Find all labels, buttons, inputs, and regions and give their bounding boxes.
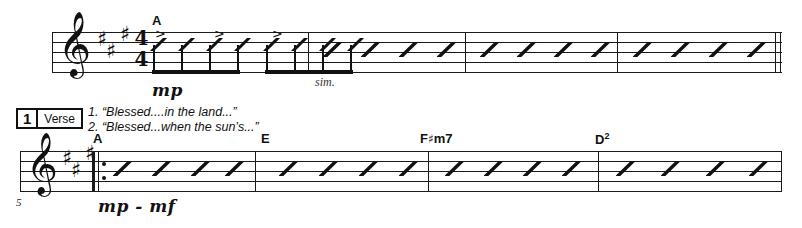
- verse-label: Verse: [38, 110, 81, 127]
- chord-root: D: [595, 132, 604, 147]
- barline: [598, 151, 599, 192]
- key-sharp-icon: ♯: [120, 24, 130, 45]
- staff-line: [20, 191, 782, 192]
- dynamic-mp-mf: mp - mf: [98, 196, 176, 216]
- verse-marker-box[interactable]: 1 Verse: [16, 108, 83, 129]
- staff-line: [20, 181, 782, 182]
- barline: [428, 151, 429, 192]
- lyric-line-1: 1. “Blessed....in the land...”: [88, 105, 237, 119]
- key-sharp-icon: ♯: [106, 41, 116, 62]
- lyric-line-2: 2. “Blessed...when the sun’s...”: [88, 120, 259, 134]
- note-stem: [322, 45, 324, 72]
- treble-clef-icon: 𝄞: [58, 16, 91, 72]
- chord-extension: 2: [604, 131, 609, 141]
- note-stem: [350, 45, 352, 72]
- chord-symbol-Fsharp-m7: F♯m7: [420, 131, 453, 146]
- chord-symbol-D2: D2: [595, 131, 609, 147]
- eighth-beam: [152, 70, 240, 74]
- note-stem: [153, 45, 155, 72]
- lyric-number-1: 1.: [88, 105, 98, 119]
- barline: [52, 32, 53, 73]
- sheet-music-page: 𝄞 ♯ ♯ ♯ 4 4 A > > > mp sim. 1: [0, 0, 802, 228]
- measure-number: 5: [16, 196, 22, 208]
- staff-line: [20, 161, 782, 162]
- chord-quality: m7: [434, 131, 453, 146]
- chord-root: F: [420, 131, 428, 146]
- direction-sim: sim.: [315, 75, 335, 90]
- chord-root: E: [261, 131, 270, 146]
- eighth-beam: [265, 70, 353, 74]
- chord-root: A: [93, 131, 102, 146]
- barline: [617, 32, 618, 73]
- treble-clef-icon: 𝄞: [26, 136, 58, 190]
- barline: [20, 151, 21, 192]
- lyric-text-2: “Blessed...when the sun’s...”: [102, 120, 259, 134]
- barline: [781, 151, 782, 192]
- dynamic-mp: mp: [152, 80, 183, 100]
- barline: [308, 32, 309, 73]
- note-stem: [209, 45, 211, 72]
- final-barline-thin-2: [780, 32, 781, 73]
- key-sharp-icon: ♯: [71, 160, 81, 181]
- time-signature-numerator: 4: [133, 29, 150, 47]
- verse-number: 1: [18, 110, 38, 127]
- note-stem: [181, 45, 183, 72]
- barline: [465, 32, 466, 73]
- repeat-start-thin-barline: [98, 151, 99, 192]
- barline: [255, 151, 256, 192]
- lyric-text-1: “Blessed....in the land...”: [102, 105, 237, 119]
- note-stem: [237, 45, 239, 72]
- note-stem: [266, 45, 268, 72]
- chord-symbol-A: A: [93, 131, 102, 146]
- repeat-start-thick-barline: [92, 151, 95, 192]
- final-barline-thin: [775, 32, 776, 73]
- staff-line: [20, 151, 782, 152]
- repeat-dots-icon: [102, 151, 106, 192]
- note-stem: [294, 45, 296, 72]
- chord-symbol-E: E: [261, 131, 270, 146]
- staff-line: [52, 52, 782, 53]
- time-signature-denominator: 4: [133, 50, 150, 68]
- staff-line: [52, 62, 782, 63]
